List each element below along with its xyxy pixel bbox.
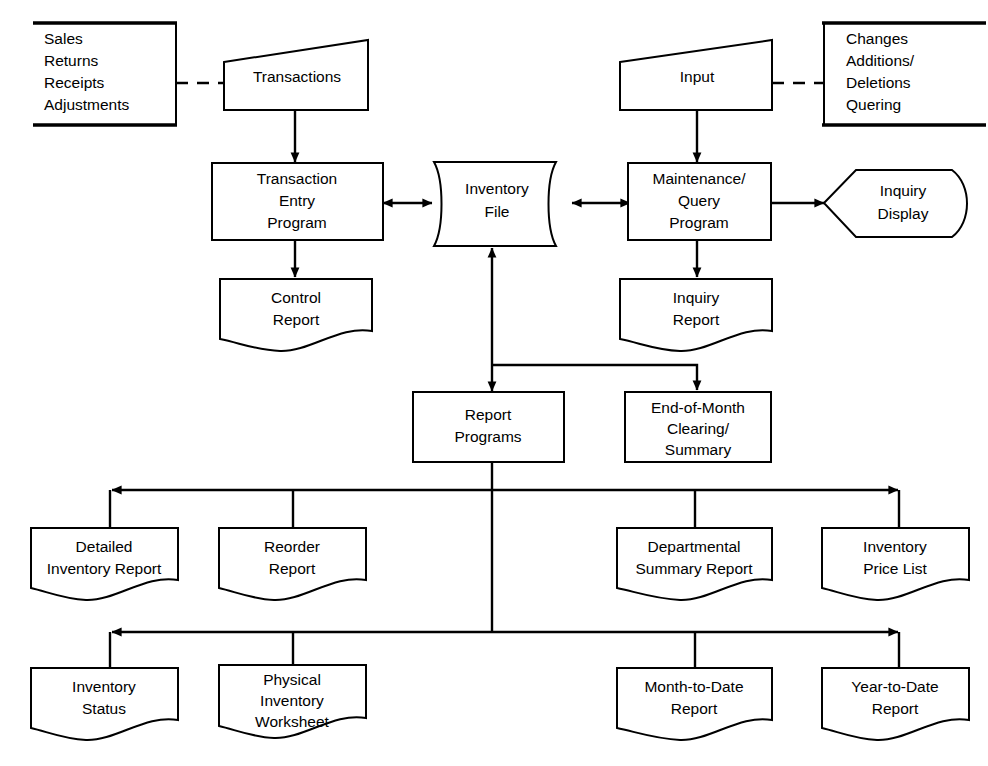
node-line: Worksheet: [255, 713, 329, 730]
node-line: Inventory: [72, 678, 136, 695]
node-line: Entry: [279, 192, 315, 209]
node-line: Summary: [665, 441, 732, 458]
node-line: Price List: [863, 560, 927, 577]
node-line: Inventory: [863, 538, 927, 555]
node-year-to-date-report[interactable]: Year-to-Date Report: [822, 668, 969, 740]
node-line: End-of-Month: [651, 399, 745, 416]
node-line: Inquiry: [880, 182, 927, 199]
node-line: Report: [273, 311, 320, 328]
node-line: Status: [82, 700, 126, 717]
node-line: Clearing/: [667, 420, 730, 437]
annotation-line: Deletions: [846, 74, 911, 91]
edge-trunk-to-end-of-month: [492, 365, 697, 390]
node-line: Reorder: [264, 538, 320, 555]
annotation-line: Returns: [44, 52, 99, 69]
node-departmental-summary-report[interactable]: Departmental Summary Report: [617, 528, 772, 600]
annotation-line: Sales: [44, 30, 83, 47]
node-line: Programs: [454, 428, 521, 445]
node-line: Report: [671, 700, 718, 717]
node-line: File: [485, 203, 510, 220]
node-line: Maintenance/: [652, 170, 746, 187]
node-line: Year-to-Date: [851, 678, 938, 695]
node-month-to-date-report[interactable]: Month-to-Date Report: [617, 668, 772, 740]
node-inventory-file[interactable]: Inventory File: [434, 162, 556, 246]
annotation-line: Changes: [846, 30, 908, 47]
annotation-line: Adjustments: [44, 96, 130, 113]
node-line: Report: [465, 406, 512, 423]
node-line: Inventory: [260, 692, 324, 709]
flowchart-canvas: Sales Returns Receipts Adjustments Chang…: [0, 0, 988, 766]
node-line: Program: [669, 214, 728, 231]
node-line: Inventory: [465, 180, 529, 197]
node-line: Display: [878, 205, 929, 222]
node-maintenance-query-program[interactable]: Maintenance/ Query Program: [628, 163, 771, 240]
node-line: Control: [271, 289, 321, 306]
node-inventory-status[interactable]: Inventory Status: [31, 668, 178, 740]
node-detailed-inventory-report[interactable]: Detailed Inventory Report: [31, 528, 178, 600]
node-line: Departmental: [647, 538, 740, 555]
annotation-line: Additions/: [846, 52, 915, 69]
annotation-maintenance-sources: Changes Additions/ Deletions Quering: [822, 22, 986, 126]
annotation-line: Quering: [846, 96, 901, 113]
node-inventory-price-list[interactable]: Inventory Price List: [822, 528, 969, 600]
report-bus-row-2: [110, 632, 899, 667]
node-line: Transaction: [257, 170, 337, 187]
node-transactions[interactable]: Transactions: [224, 40, 368, 110]
node-line: Month-to-Date: [644, 678, 743, 695]
node-inquiry-report[interactable]: Inquiry Report: [620, 279, 772, 351]
annotation-line: Receipts: [44, 74, 105, 91]
node-transactions-label: Transactions: [253, 68, 341, 85]
node-line: Inquiry: [673, 289, 720, 306]
annotation-transaction-sources: Sales Returns Receipts Adjustments: [33, 22, 177, 126]
node-transaction-entry-program[interactable]: Transaction Entry Program: [212, 163, 383, 240]
node-line: Query: [678, 192, 720, 209]
node-line: Program: [267, 214, 326, 231]
node-line: Physical: [263, 671, 321, 688]
node-reorder-report[interactable]: Reorder Report: [219, 528, 366, 600]
node-line: Inventory Report: [47, 560, 162, 577]
node-inquiry-display[interactable]: Inquiry Display: [824, 170, 967, 237]
node-line: Summary Report: [635, 560, 753, 577]
node-line: Report: [269, 560, 316, 577]
report-bus-row-1: [110, 490, 899, 527]
node-physical-inventory-worksheet[interactable]: Physical Inventory Worksheet: [219, 665, 366, 738]
node-report-programs[interactable]: Report Programs: [413, 392, 564, 462]
node-input[interactable]: Input: [620, 40, 772, 110]
node-input-label: Input: [680, 68, 715, 85]
node-line: Report: [673, 311, 720, 328]
node-end-of-month[interactable]: End-of-Month Clearing/ Summary: [625, 392, 771, 462]
node-line: Detailed: [76, 538, 133, 555]
node-line: Report: [872, 700, 919, 717]
node-control-report[interactable]: Control Report: [220, 279, 372, 351]
flowchart-svg: Sales Returns Receipts Adjustments Chang…: [0, 0, 988, 766]
